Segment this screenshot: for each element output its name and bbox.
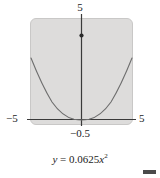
caption-equals: = xyxy=(57,153,69,165)
equation-caption: y = 0.0625x2 xyxy=(0,152,160,165)
caption-exponent: 2 xyxy=(104,152,108,160)
calculator-screen xyxy=(30,18,133,125)
axis-label-xmin: −5 xyxy=(6,113,18,124)
axis-label-ymax: 5 xyxy=(0,2,160,13)
graph-figure: 5 −5 5 −0.5 y = 0.0625x2 xyxy=(0,0,160,178)
axis-label-xmax: 5 xyxy=(139,113,145,124)
axis-label-xscale: −0.5 xyxy=(0,128,160,139)
page-corner-mark xyxy=(143,170,156,174)
caption-coefficient: 0.0625 xyxy=(69,153,99,165)
